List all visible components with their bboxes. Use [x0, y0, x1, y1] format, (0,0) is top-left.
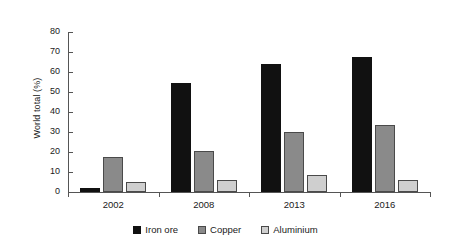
x-tick-mark: [159, 192, 160, 197]
x-axis-label: 2002: [68, 199, 159, 210]
x-axis-label: 2008: [159, 199, 250, 210]
y-tick-label: 60: [50, 66, 60, 77]
y-tick-label: 50: [50, 86, 60, 97]
x-tick-mark: [249, 192, 250, 197]
legend-label: Iron ore: [145, 224, 178, 235]
x-axis-label: 2013: [249, 199, 340, 210]
legend-item[interactable]: Copper: [198, 224, 241, 235]
chart-legend: Iron oreCopperAluminium: [0, 224, 451, 235]
bar[interactable]: [375, 125, 395, 192]
bar-group: [159, 32, 250, 192]
y-tick-label: 30: [50, 126, 60, 137]
legend-swatch-icon: [198, 226, 206, 234]
bar[interactable]: [398, 180, 418, 192]
bar[interactable]: [171, 83, 191, 192]
plot-area: [68, 32, 430, 192]
bar[interactable]: [217, 180, 237, 192]
bar[interactable]: [194, 151, 214, 192]
legend-item[interactable]: Aluminium: [261, 224, 317, 235]
bar[interactable]: [80, 188, 100, 192]
bar[interactable]: [352, 57, 372, 192]
bar-group: [340, 32, 431, 192]
x-tick-mark: [68, 192, 69, 197]
y-axis-title: World total (%): [32, 38, 42, 178]
x-tick-mark: [430, 192, 431, 197]
legend-swatch-icon: [133, 226, 141, 234]
bar-group: [249, 32, 340, 192]
y-tick-label: 80: [50, 26, 60, 37]
y-tick-label: 70: [50, 46, 60, 57]
bar[interactable]: [284, 132, 304, 192]
y-tick-label: 10: [50, 166, 60, 177]
legend-item[interactable]: Iron ore: [133, 224, 178, 235]
bar-chart: World total (%) 01020304050607080 200220…: [0, 0, 451, 251]
legend-label: Aluminium: [273, 224, 317, 235]
legend-label: Copper: [210, 224, 241, 235]
bar[interactable]: [126, 182, 146, 192]
y-tick-label: 40: [50, 106, 60, 117]
x-tick-mark: [340, 192, 341, 197]
x-axis-label: 2016: [340, 199, 431, 210]
bar-group: [68, 32, 159, 192]
x-axis-labels: 2002200820132016: [68, 199, 430, 210]
bar[interactable]: [261, 64, 281, 192]
y-tick-label: 20: [50, 146, 60, 157]
bar[interactable]: [103, 157, 123, 192]
legend-swatch-icon: [261, 226, 269, 234]
bar[interactable]: [307, 175, 327, 192]
y-tick-label: 0: [55, 186, 60, 197]
